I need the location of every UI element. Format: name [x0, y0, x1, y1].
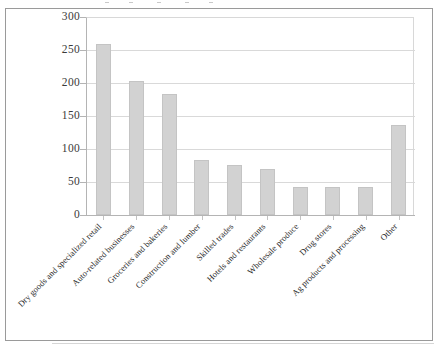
- x-axis-tick-labels: Dry goods and specialized retailAuto-rel…: [0, 215, 438, 335]
- y-axis-tick-label: 50: [20, 176, 80, 188]
- figure-caption: [52, 345, 434, 354]
- y-axis-tick-label: 150: [20, 110, 80, 122]
- figure: 050100150200250300 Dry goods and special…: [0, 0, 438, 354]
- x-axis-tick-label: Auto-related businesses: [70, 222, 136, 288]
- bar: [96, 44, 111, 215]
- bar: [325, 187, 340, 215]
- bar: [227, 165, 242, 215]
- bar: [194, 160, 209, 215]
- y-axis-tick-label: 250: [20, 44, 80, 56]
- x-axis-tick-label: Hotels and restaurants: [205, 222, 267, 284]
- bar: [260, 169, 275, 215]
- x-axis-tick-label: Construction and lumber: [134, 222, 202, 290]
- bar: [358, 187, 373, 215]
- caption-rule: [52, 343, 434, 344]
- top-edge-tick-stubs: [105, 0, 215, 8]
- y-axis-tick-label: 300: [20, 11, 80, 23]
- x-axis-tick-label: Other: [379, 222, 400, 243]
- y-axis-tick-label: 200: [20, 77, 80, 89]
- x-axis-tick-label: Groceries and bakeries: [106, 222, 170, 286]
- bar: [162, 94, 177, 215]
- bar: [129, 81, 144, 215]
- x-axis-tick-label: Ag products and processing: [290, 222, 366, 298]
- bar: [293, 187, 308, 215]
- bar: [391, 125, 406, 215]
- bar-series: [87, 17, 414, 215]
- y-axis-tick-label: 100: [20, 143, 80, 155]
